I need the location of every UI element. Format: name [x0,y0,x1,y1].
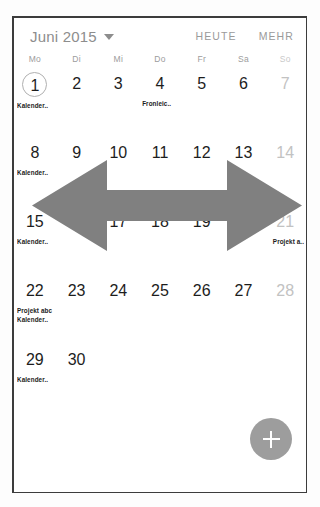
event-label[interactable]: Kalender.. [17,376,56,385]
day-cell-empty [97,346,139,415]
day-number: 7 [264,73,306,95]
day-cell-4[interactable]: 4Fronleic.. [139,70,181,139]
event-list: Fronleic.. [139,100,181,109]
day-cell-15[interactable]: 15Kalender.. [14,208,56,277]
day-cell-22[interactable]: 22Projekt abcKalender.. [14,277,56,346]
day-number: 29 [14,349,56,371]
week-row: 15Kalender..161718192021Projekt a.. [14,208,306,277]
weekday-label-di: Di [56,54,98,64]
day-number: 11 [139,142,181,164]
day-number: 2 [56,73,98,95]
day-cell-10[interactable]: 10 [97,139,139,208]
event-label[interactable]: Kalender.. [17,169,56,178]
day-number: 16 [56,211,98,233]
day-cell-empty [181,346,223,415]
event-list: Kalender.. [14,376,56,385]
app-top-bar: Juni 2015 HEUTE MEHR [14,18,306,54]
day-number: 3 [97,73,139,95]
day-cell-24[interactable]: 24 [97,277,139,346]
day-cell-12[interactable]: 12 [181,139,223,208]
day-number: 22 [14,280,56,302]
day-cell-19[interactable]: 19 [181,208,223,277]
day-number: 10 [97,142,139,164]
event-label[interactable]: Kalender.. [17,238,56,247]
day-cell-2[interactable]: 2 [56,70,98,139]
day-number: 13 [223,142,265,164]
day-cell-23[interactable]: 23 [56,277,98,346]
event-list: Projekt abcKalender.. [14,307,56,324]
day-cell-14[interactable]: 14 [264,139,306,208]
event-label[interactable]: Projekt abc [17,307,56,316]
event-label[interactable]: Projekt a.. [264,238,304,247]
day-cell-16[interactable]: 16 [56,208,98,277]
weekday-header: MoDiMiDoFrSaSo [14,54,306,64]
month-grid: 1Kalender..234Fronleic..5678Kalender..91… [14,70,306,415]
day-number: 18 [139,211,181,233]
weekday-label-mi: Mi [97,54,139,64]
event-list: Kalender.. [14,102,56,111]
day-number: 20 [223,211,265,233]
plus-icon [263,431,280,448]
day-number: 15 [14,211,56,233]
day-number: 28 [264,280,306,302]
day-number: 19 [181,211,223,233]
day-cell-11[interactable]: 11 [139,139,181,208]
day-number: 9 [56,142,98,164]
day-cell-30[interactable]: 30 [56,346,98,415]
day-number: 6 [223,73,265,95]
event-label[interactable]: Fronleic.. [142,100,181,109]
day-number: 27 [223,280,265,302]
day-cell-empty [264,346,306,415]
day-number: 30 [56,349,98,371]
day-number: 25 [139,280,181,302]
day-cell-5[interactable]: 5 [181,70,223,139]
day-cell-26[interactable]: 26 [181,277,223,346]
day-cell-7[interactable]: 7 [264,70,306,139]
month-selector[interactable]: Juni 2015 [30,28,114,45]
day-cell-8[interactable]: 8Kalender.. [14,139,56,208]
day-cell-27[interactable]: 27 [223,277,265,346]
device-frame: Juni 2015 HEUTE MEHR MoDiMiDoFrSaSo 1Kal… [12,16,307,493]
today-button[interactable]: HEUTE [196,30,237,42]
weekday-label-so: So [264,54,306,64]
day-cell-21[interactable]: 21Projekt a.. [264,208,306,277]
day-number: 21 [264,211,306,233]
day-number: 12 [181,142,223,164]
week-row: 29Kalender..30 [14,346,306,415]
day-cell-18[interactable]: 18 [139,208,181,277]
day-cell-empty [139,346,181,415]
day-number: 14 [264,142,306,164]
more-button[interactable]: MEHR [259,30,294,42]
add-event-fab[interactable] [250,418,292,460]
day-number: 1 [22,72,47,97]
day-cell-9[interactable]: 9 [56,139,98,208]
chevron-down-icon [104,34,114,40]
weekday-label-mo: Mo [14,54,56,64]
day-number: 5 [181,73,223,95]
day-cell-25[interactable]: 25 [139,277,181,346]
event-list: Kalender.. [14,169,56,178]
day-number: 26 [181,280,223,302]
day-cell-29[interactable]: 29Kalender.. [14,346,56,415]
week-row: 1Kalender..234Fronleic..567 [14,70,306,139]
month-title-label: Juni 2015 [30,28,97,45]
day-cell-13[interactable]: 13 [223,139,265,208]
weekday-label-do: Do [139,54,181,64]
event-list: Projekt a.. [264,238,306,247]
top-bar-actions: HEUTE MEHR [196,30,294,42]
day-cell-28[interactable]: 28 [264,277,306,346]
event-label[interactable]: Kalender.. [17,316,56,325]
day-number: 8 [14,142,56,164]
event-label[interactable]: Kalender.. [17,102,56,111]
week-row: 8Kalender..91011121314 [14,139,306,208]
day-number: 23 [56,280,98,302]
day-cell-6[interactable]: 6 [223,70,265,139]
event-list: Kalender.. [14,238,56,247]
day-number: 24 [97,280,139,302]
day-cell-17[interactable]: 17 [97,208,139,277]
weekday-label-sa: Sa [223,54,265,64]
day-number: 4 [139,73,181,95]
day-cell-3[interactable]: 3 [97,70,139,139]
day-cell-1[interactable]: 1Kalender.. [14,70,56,139]
day-cell-20[interactable]: 20 [223,208,265,277]
